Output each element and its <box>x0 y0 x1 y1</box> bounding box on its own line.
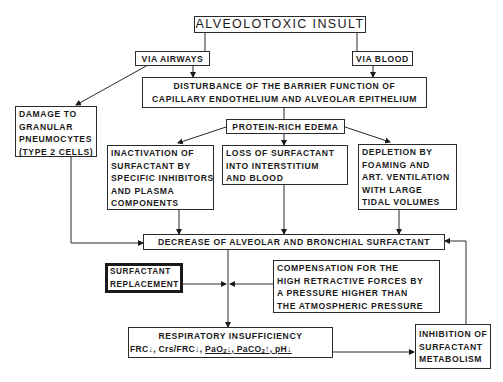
via-airways-box: VIA AIRWAYS <box>135 51 210 66</box>
title-box: ALVEOLOTOXIC INSULT <box>194 16 366 33</box>
loss-line: LOSS OF SURFACTANT <box>226 147 344 160</box>
ph-label: pH <box>275 344 287 354</box>
damage-line: (TYPE 2 CELLS) <box>19 146 93 159</box>
depletion-line: TIDAL VOLUMES <box>362 196 453 209</box>
compensation-line: COMPENSATION FOR THE <box>277 262 436 275</box>
edema-box: PROTEIN-RICH EDEMA <box>226 119 345 134</box>
disturbance-box: DISTURBANCE OF THE BARRIER FUNCTION OF C… <box>142 77 427 108</box>
inactivation-line: AND PLASMA <box>111 185 210 198</box>
arrow-down-icon: ↓ <box>287 344 292 354</box>
loss-line: INTO INTERSTITIUM <box>226 160 344 173</box>
decrease-label: DECREASE OF ALVEOLAR AND BRONCHIAL SURFA… <box>158 237 430 247</box>
respiratory-parameters: FRC↓, Crs/FRC↓, PaO2↓, PaCO2↑, pH↓ <box>130 343 331 358</box>
inhibition-line: SURFACTANT <box>419 341 487 354</box>
loss-line: AND BLOOD <box>226 172 344 185</box>
compensation-box: COMPENSATION FOR THE HIGH RETRACTIVE FOR… <box>273 260 440 313</box>
disturbance-line-1: DISTURBANCE OF THE BARRIER FUNCTION OF <box>146 80 423 93</box>
inactivation-line: SURFACTANT BY <box>111 160 210 173</box>
compensation-line: HIGH RETRACTIVE FORCES BY <box>277 275 436 288</box>
inactivation-line: SPECIFIC INHIBITORS <box>111 172 210 185</box>
inhibition-line: METABOLISM <box>419 353 487 366</box>
damage-box: DAMAGE TO GRANULAR PNEUMOCYTES (TYPE 2 C… <box>15 106 97 157</box>
replacement-line: REPLACEMENT <box>110 279 178 292</box>
edema-label: PROTEIN-RICH EDEMA <box>232 122 338 132</box>
compensation-line: THE ATMOSPHERIC PRESSURE <box>277 300 436 313</box>
decrease-box: DECREASE OF ALVEOLAR AND BRONCHIAL SURFA… <box>143 234 445 250</box>
depletion-line: ART. VENTILATION <box>362 171 453 184</box>
respiratory-heading: RESPIRATORY INSUFFICIENCY <box>130 330 331 343</box>
via-blood-box: VIA BLOOD <box>352 51 413 66</box>
damage-line: DAMAGE TO <box>19 108 93 121</box>
damage-line: GRANULAR <box>19 121 93 134</box>
via-blood-label: VIA BLOOD <box>356 54 409 64</box>
inhibition-line: INHIBITION OF <box>419 328 487 341</box>
respiratory-insufficiency-box: RESPIRATORY INSUFFICIENCY FRC↓, Crs/FRC↓… <box>128 327 333 358</box>
loss-box: LOSS OF SURFACTANT INTO INTERSTITIUM AND… <box>222 145 348 185</box>
depletion-line: WITH LARGE <box>362 184 453 197</box>
surfactant-replacement-box: SURFACTANT REPLACEMENT <box>105 263 183 293</box>
compensation-line: A PRESSURE HIGHER THAN <box>277 287 436 300</box>
via-airways-label: VIA AIRWAYS <box>142 54 204 64</box>
crs-frc-label: Crs/FRC <box>159 344 195 354</box>
frc-label: FRC <box>130 344 149 354</box>
depletion-line: FOAMING AND <box>362 159 453 172</box>
disturbance-line-2: CAPILLARY ENDOTHELIUM AND ALVEOLAR EPITH… <box>146 93 423 106</box>
paco2-label: PaCO <box>237 344 262 354</box>
pao2-label: PaO2↓, PaCO2↑, pH↓ <box>205 344 292 354</box>
inactivation-box: INACTIVATION OF SURFACTANT BY SPECIFIC I… <box>107 145 214 210</box>
title-label: ALVEOLOTOXIC INSULT <box>195 17 364 31</box>
inactivation-line: COMPONENTS <box>111 197 210 210</box>
replacement-line: SURFACTANT <box>110 266 178 279</box>
depletion-box: DEPLETION BY FOAMING AND ART. VENTILATIO… <box>358 144 457 210</box>
depletion-line: DEPLETION BY <box>362 146 453 159</box>
inactivation-line: INACTIVATION OF <box>111 147 210 160</box>
inhibition-box: INHIBITION OF SURFACTANT METABOLISM <box>415 324 491 369</box>
damage-line: PNEUMOCYTES <box>19 133 93 146</box>
